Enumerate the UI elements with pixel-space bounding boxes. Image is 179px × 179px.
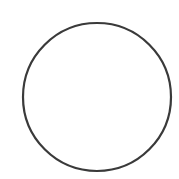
circle-outline <box>23 23 171 171</box>
canvas <box>0 0 179 179</box>
